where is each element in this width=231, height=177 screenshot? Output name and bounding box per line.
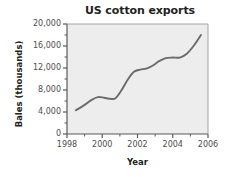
x-tick-label: 2000 [85, 140, 119, 149]
y-tick-label: 0 [21, 129, 61, 138]
y-tick-label: 8,000 [21, 85, 61, 94]
x-tick-label: 2006 [191, 140, 225, 149]
x-axis-ticks [67, 134, 208, 138]
x-tick-label: 2004 [156, 140, 190, 149]
x-tick-label: 2002 [121, 140, 155, 149]
chart-figure: US cotton exports Bales (thousands) Year… [0, 0, 231, 177]
y-tick-label: 20,000 [21, 19, 61, 28]
y-tick-label: 12,000 [21, 63, 61, 72]
y-tick-label: 4,000 [21, 107, 61, 116]
x-tick-label: 1998 [50, 140, 84, 149]
y-tick-label: 16,000 [21, 41, 61, 50]
plot-background [67, 24, 208, 134]
